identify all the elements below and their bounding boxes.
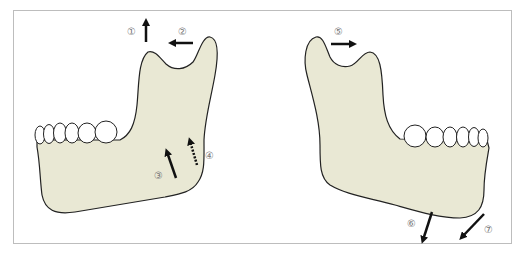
- right-mandible: ⑤ ⑥ ⑦: [305, 26, 493, 240]
- label-7: ⑦: [484, 224, 493, 235]
- right-teeth: [404, 125, 488, 147]
- label-3: ③: [154, 170, 163, 181]
- label-5: ⑤: [334, 26, 343, 37]
- label-4: ④: [205, 150, 214, 161]
- left-teeth: [35, 121, 117, 144]
- label-6: ⑥: [407, 218, 416, 229]
- mandible-diagram: ① ② ③ ④ ⑤ ⑥ ⑦: [0, 0, 519, 253]
- left-mandible: ① ② ③ ④: [35, 22, 217, 213]
- label-1: ①: [127, 26, 136, 37]
- label-2: ②: [178, 26, 187, 37]
- arrow-6-icon: [423, 212, 432, 240]
